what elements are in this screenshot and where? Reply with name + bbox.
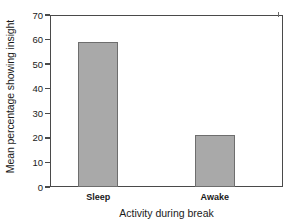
y-axis-title: Mean percentage showing insight — [2, 3, 18, 190]
x-axis-category-label-awake: Awake — [175, 191, 255, 203]
y-axis-tick-mark — [45, 14, 50, 15]
y-axis-tick-mark — [45, 113, 50, 114]
bar-chart-figure: Mean percentage showing insight 01020304… — [0, 0, 293, 223]
plot-area: 010203040506070 — [50, 15, 283, 187]
y-axis-tick-label: 30 — [32, 106, 43, 121]
y-axis-tick-mark — [45, 137, 50, 138]
y-axis-tick-mark — [45, 162, 50, 163]
y-axis-tick-label: 40 — [32, 81, 43, 96]
y-axis-tick-label: 20 — [32, 130, 43, 145]
y-axis-tick-mark — [45, 88, 50, 89]
x-axis-title: Activity during break — [50, 206, 283, 220]
y-axis-tick-label: 70 — [32, 8, 43, 23]
y-axis-tick-label: 10 — [32, 155, 43, 170]
y-axis-tick-mark — [45, 186, 50, 187]
x-axis-category-label-sleep: Sleep — [58, 191, 138, 203]
y-axis-tick-mark — [45, 63, 50, 64]
y-axis-tick-label: 50 — [32, 57, 43, 72]
bar-sleep[interactable] — [78, 42, 118, 187]
bar-awake[interactable] — [195, 135, 235, 187]
y-axis-tick-label: 0 — [38, 180, 43, 195]
y-axis-tick-label: 60 — [32, 32, 43, 47]
y-axis-tick-mark — [45, 39, 50, 40]
